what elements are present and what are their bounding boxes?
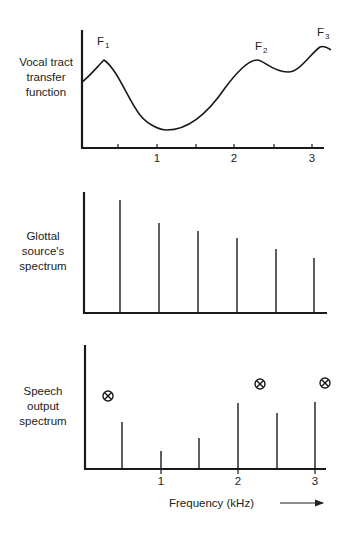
vocal-tract-label-2: transfer bbox=[27, 71, 66, 83]
vocal-tract-label-3: function bbox=[26, 86, 66, 98]
formant-markers bbox=[103, 378, 330, 401]
speech-label-2: output bbox=[27, 400, 60, 412]
glottal-panel: Glottal source's spectrum bbox=[19, 192, 327, 314]
source-filter-diagram: Vocal tract transfer function 1 2 3 F 1 … bbox=[0, 0, 351, 535]
tick-label-1: 1 bbox=[158, 475, 164, 487]
glottal-label-2: source's bbox=[22, 245, 65, 257]
speech-label-1: Speech bbox=[23, 385, 62, 397]
svg-text:1: 1 bbox=[105, 41, 110, 50]
transfer-function-curve bbox=[82, 46, 331, 130]
tick-label-1: 1 bbox=[154, 152, 160, 164]
formant-f2-label: F 2 bbox=[255, 40, 268, 55]
speech-label-3: spectrum bbox=[19, 415, 66, 427]
tick-label-3: 3 bbox=[312, 475, 318, 487]
formant-f1-label: F 1 bbox=[97, 35, 110, 50]
glottal-label-3: spectrum bbox=[19, 260, 66, 272]
output-harmonic-lines bbox=[122, 402, 315, 469]
formant-marker-icon-1 bbox=[103, 391, 113, 401]
frequency-axis-label: Frequency (kHz) bbox=[169, 497, 254, 509]
svg-text:F: F bbox=[97, 35, 104, 47]
formant-marker-icon-3 bbox=[320, 378, 330, 388]
tick-label-2: 2 bbox=[235, 475, 241, 487]
svg-text:F: F bbox=[317, 26, 324, 38]
svg-text:F: F bbox=[255, 40, 262, 52]
harmonic-lines bbox=[120, 200, 314, 313]
tick-label-2: 2 bbox=[231, 152, 237, 164]
svg-text:3: 3 bbox=[325, 32, 330, 41]
speech-output-panel: Speech output spectrum bbox=[19, 345, 330, 509]
svg-text:2: 2 bbox=[263, 46, 268, 55]
glottal-label-1: Glottal bbox=[26, 230, 59, 242]
tick-label-3: 3 bbox=[309, 152, 315, 164]
vocal-tract-panel: Vocal tract transfer function 1 2 3 F 1 … bbox=[19, 26, 331, 164]
vocal-tract-label-1: Vocal tract bbox=[19, 56, 73, 68]
formant-f3-label: F 3 bbox=[317, 26, 330, 41]
formant-marker-icon-2 bbox=[255, 379, 265, 389]
